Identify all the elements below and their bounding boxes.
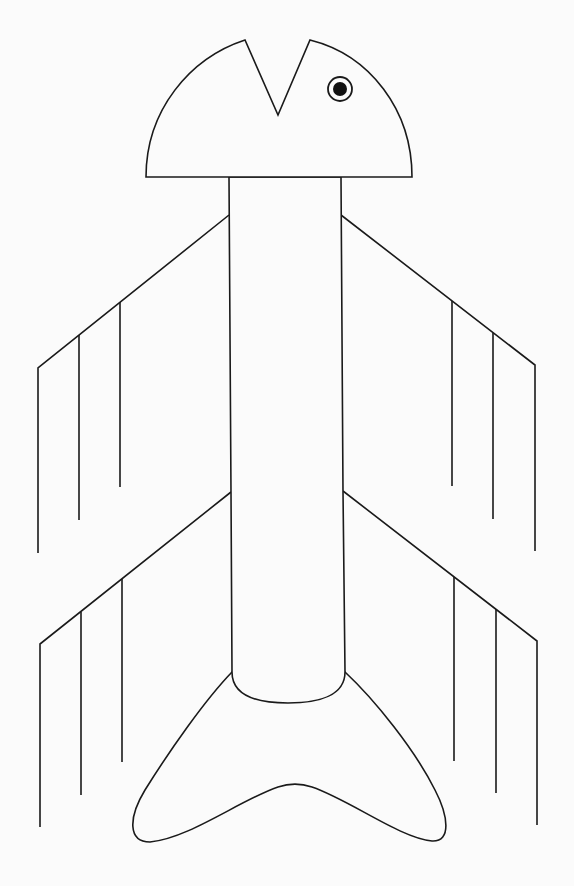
head	[146, 40, 412, 177]
body	[229, 177, 345, 703]
drawing-canvas	[0, 0, 574, 886]
upper-right-wing	[341, 215, 535, 551]
bird-illustration	[0, 0, 574, 886]
upper-right-wing-edge	[341, 215, 535, 551]
upper-left-wing-edge	[38, 215, 229, 553]
upper-left-wing	[38, 215, 229, 553]
eye	[328, 77, 352, 101]
eye-pupil-icon	[333, 82, 347, 96]
